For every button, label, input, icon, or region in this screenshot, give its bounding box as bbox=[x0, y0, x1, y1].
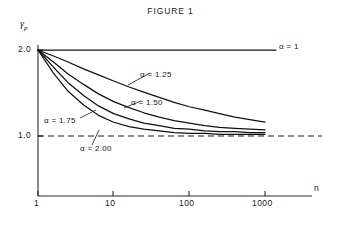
curve-alpha-1-75 bbox=[38, 50, 265, 133]
curve-alpha-2 bbox=[38, 50, 265, 134]
curve-group bbox=[38, 50, 276, 134]
leader-alpha-200 bbox=[92, 130, 99, 145]
curve-alpha-1-5 bbox=[38, 50, 265, 130]
leader-alpha-150 bbox=[124, 101, 141, 108]
figure-container: FIGURE 1 γp n 2.0 1.0 1 10 100 1000 α = … bbox=[0, 0, 341, 226]
leader-alpha-125 bbox=[128, 73, 150, 85]
plot-area bbox=[0, 0, 341, 226]
leader-alpha-175 bbox=[80, 110, 96, 118]
